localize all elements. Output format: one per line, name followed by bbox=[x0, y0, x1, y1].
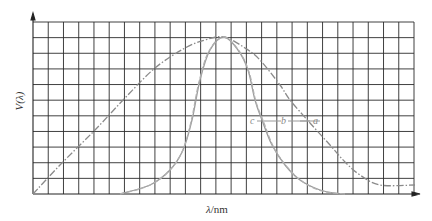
curve-a bbox=[33, 37, 415, 194]
curves bbox=[33, 37, 415, 194]
legend-label-c: c bbox=[250, 115, 254, 126]
y-axis-arrow-icon bbox=[31, 13, 35, 20]
chart-canvas bbox=[0, 0, 432, 221]
grid-lines bbox=[33, 22, 414, 194]
y-axis-label: V(λ) bbox=[13, 86, 25, 116]
x-axis-label: λ/nm bbox=[206, 203, 228, 215]
x-axis-unit: /nm bbox=[211, 203, 228, 215]
x-axis-arrow-icon bbox=[412, 192, 420, 196]
legend-label-a: a bbox=[313, 115, 318, 126]
legend-label-b: b bbox=[281, 115, 286, 126]
axes bbox=[31, 13, 420, 196]
